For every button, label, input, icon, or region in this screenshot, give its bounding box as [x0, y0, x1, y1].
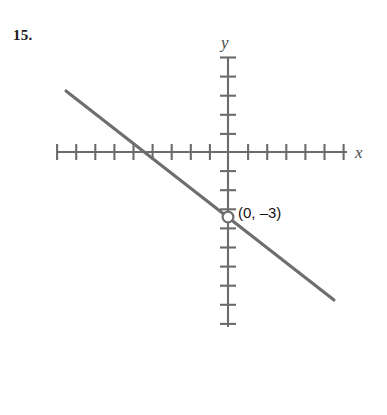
x-axis-label: x	[354, 143, 363, 162]
x-axis-group: x	[56, 143, 363, 162]
figure-container: 15. x	[0, 0, 387, 415]
point-coordinate-label: (0, –3)	[238, 204, 281, 221]
y-axis-label: y	[219, 33, 229, 52]
plotted-line	[66, 91, 334, 300]
coordinate-graph: x y	[0, 0, 387, 415]
y-intercept-open-circle-marker	[223, 212, 234, 223]
y-axis-group: y	[219, 33, 236, 327]
